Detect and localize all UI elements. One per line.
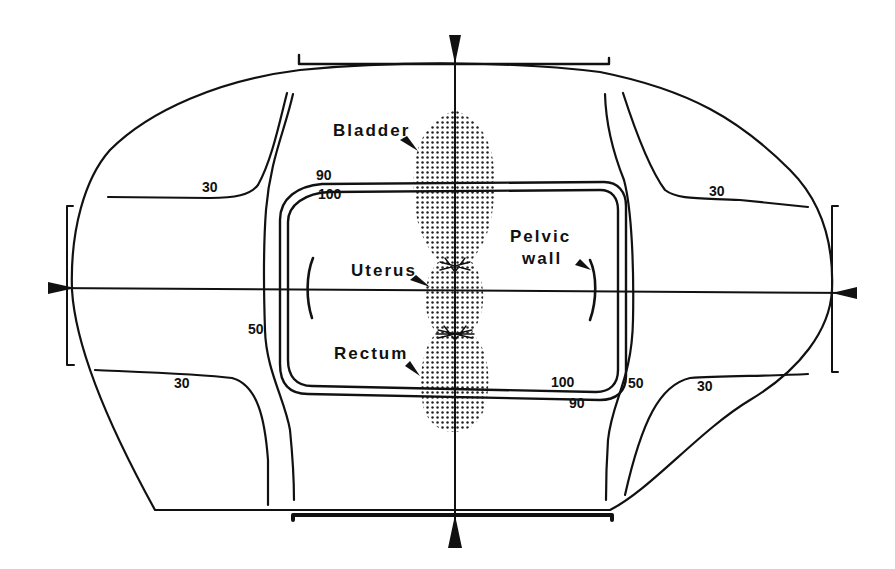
isodose-diagram: Bladder Uterus Rectum Pelvic wall 30 30 … — [0, 0, 895, 569]
pelvic-wall-right — [590, 260, 595, 320]
isodose-label-100-lower: 100 — [551, 375, 574, 389]
diagram-canvas — [0, 0, 895, 569]
bottom-arrow-icon — [448, 515, 462, 548]
posterior-field-bracket — [293, 515, 612, 520]
isodose-30-lower-right — [625, 374, 808, 495]
top-arrow-icon — [449, 35, 461, 64]
isodose-label-90-upper: 90 — [316, 168, 332, 182]
pelvic-wall-label-line1: Pelvic — [510, 228, 571, 245]
rectum-pointer-icon — [405, 361, 420, 376]
isodose-label-30-lower-left: 30 — [174, 376, 190, 390]
isodose-30-upper-left — [108, 93, 287, 198]
isodose-label-90-lower: 90 — [569, 396, 585, 410]
isodose-label-50-left: 50 — [248, 322, 264, 336]
isodose-label-50-right: 50 — [628, 376, 644, 390]
pelvic-wall-label-line2: wall — [522, 250, 562, 267]
uterus-label: Uterus — [351, 262, 417, 279]
isodose-label-30-upper-left: 30 — [202, 180, 218, 194]
isodose-label-30-lower-right: 30 — [697, 379, 713, 393]
isodose-label-30-upper-right: 30 — [709, 184, 725, 198]
pelvic-wall-left — [308, 258, 313, 318]
rectum-label: Rectum — [334, 345, 408, 362]
right-field-bracket — [832, 206, 838, 372]
bladder-label: Bladder — [333, 122, 410, 139]
pelvic-wall-pointer-icon — [575, 259, 591, 270]
isodose-label-100-upper: 100 — [318, 187, 341, 201]
right-arrow-icon — [832, 287, 857, 299]
